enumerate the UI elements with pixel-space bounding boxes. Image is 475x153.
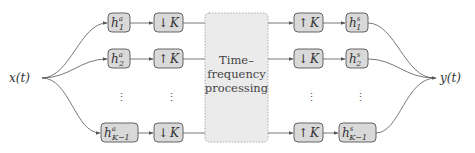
ellipsis-synthesis-filters: ⋮: [355, 91, 366, 104]
ellipsis-analysis-resamplers: ⋮: [166, 91, 177, 104]
synthesis-resampler-1: ↑K: [294, 13, 323, 32]
filter-label: hs2: [349, 51, 361, 68]
up-arrow-icon: ↑: [298, 16, 308, 30]
output-branch-3: [376, 78, 436, 133]
output-branch-2: [368, 59, 434, 78]
analysis-resampler-1: ↓K: [154, 13, 183, 32]
output-branch-1: [368, 23, 434, 78]
filter-label: ha2: [111, 51, 124, 68]
synthesis-filter-2: hs2: [346, 49, 368, 68]
filter-label: hs1: [349, 15, 361, 32]
synthesis-filter-k-minus-1: hsK−1: [339, 123, 376, 142]
ellipsis-analysis-filters: ⋮: [116, 91, 127, 104]
svg-text:processing: processing: [205, 81, 269, 95]
analysis-resampler-k-minus-1: ↓K: [154, 123, 183, 142]
svg-text:frequency: frequency: [207, 67, 266, 81]
analysis-filter-1: ha1: [108, 13, 130, 32]
time-frequency-processing-block: Time– frequency processing: [205, 13, 269, 142]
down-arrow-icon: ↓: [158, 126, 168, 140]
filterbank-diagram: x(t) ha1 ha2 haK−1 ↓K ↑K ↓K Time– freque…: [0, 0, 475, 153]
analysis-filter-k-minus-1: haK−1: [101, 123, 138, 142]
down-arrow-icon: ↓: [298, 52, 308, 66]
input-branch-3: [42, 78, 100, 133]
up-arrow-icon: ↑: [158, 52, 168, 66]
input-signal-label: x(t): [9, 71, 30, 85]
up-arrow-icon: ↑: [298, 126, 308, 140]
synthesis-resampler-2: ↓K: [294, 49, 323, 68]
synthesis-filter-1: hs1: [346, 13, 368, 32]
output-signal-label: y(t): [439, 71, 461, 85]
synthesis-resampler-k-minus-1: ↑K: [294, 123, 323, 142]
input-branch-1: [42, 23, 107, 78]
svg-text:Time–: Time–: [219, 53, 254, 67]
filter-label: ha1: [111, 15, 124, 32]
ellipsis-synthesis-resamplers: ⋮: [306, 91, 317, 104]
analysis-resampler-2: ↑K: [154, 49, 183, 68]
down-arrow-icon: ↓: [158, 16, 168, 30]
analysis-filter-2: ha2: [108, 49, 130, 68]
